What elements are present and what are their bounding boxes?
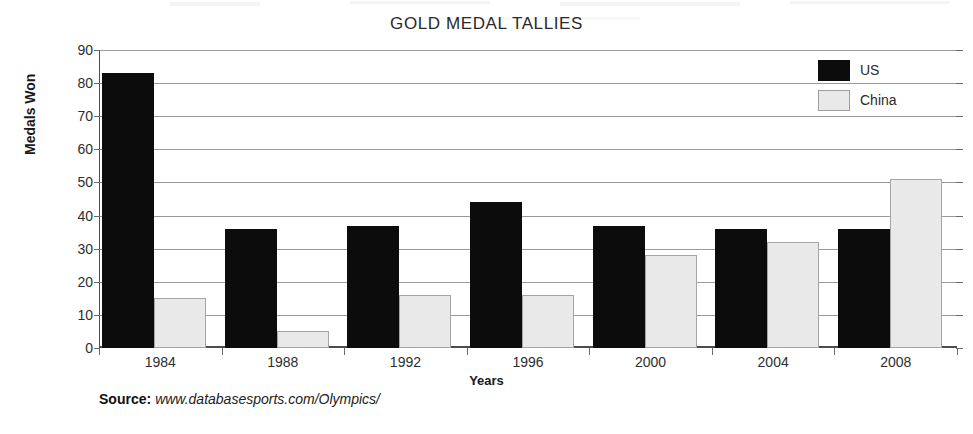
y-axis-tick-label: 30 [59, 241, 93, 257]
bar-us-1996 [470, 202, 522, 348]
bar-china-2000 [645, 255, 697, 348]
legend-swatch-china [818, 90, 850, 111]
legend-item-china: China [818, 85, 948, 115]
x-axis-tick-label: 2008 [880, 354, 911, 370]
y-axis-tick [94, 282, 100, 283]
x-axis-tick-label: 2000 [635, 354, 666, 370]
y-axis-tick-labels: 9080706050403020100 [59, 50, 93, 348]
y-axis-tick-label: 40 [59, 208, 93, 224]
bar-china-1996 [522, 295, 574, 348]
scan-artifact [560, 2, 740, 6]
source-note: Source:www.databasesports.com/Olympics/ [99, 391, 380, 407]
x-axis-tick [712, 348, 713, 355]
bar-us-2008 [838, 229, 890, 348]
x-axis-tick-label: 1984 [145, 354, 176, 370]
y-axis-tick-label: 20 [59, 274, 93, 290]
gridline [99, 216, 957, 217]
legend-item-us: US [818, 55, 948, 85]
x-axis-tick [834, 348, 835, 355]
y-axis-tick-label: 10 [59, 307, 93, 323]
y-axis-tick-right [956, 315, 963, 316]
y-axis-tick-label: 70 [59, 108, 93, 124]
y-axis-tick [94, 149, 100, 150]
x-axis-tick [467, 348, 468, 355]
x-axis-tick [957, 348, 958, 355]
x-axis-label: Years [0, 373, 973, 388]
y-axis-tick [94, 50, 100, 51]
bar-us-1984 [102, 73, 154, 348]
gridline [99, 50, 957, 51]
x-axis-tick-label: 1988 [267, 354, 298, 370]
scan-artifact [350, 1, 490, 4]
source-url: www.databasesports.com/Olympics/ [155, 391, 380, 407]
y-axis-tick [94, 249, 100, 250]
bar-china-1992 [399, 295, 451, 348]
y-axis-tick-right [956, 116, 963, 117]
y-axis-tick-right [956, 83, 963, 84]
scan-artifact [170, 2, 260, 6]
bar-china-2004 [767, 242, 819, 348]
gridline [99, 116, 957, 117]
bar-china-1984 [154, 298, 206, 348]
bar-us-2000 [593, 226, 645, 349]
x-axis-tick-label: 1996 [512, 354, 543, 370]
bar-us-1992 [347, 226, 399, 349]
chart-page: GOLD MEDAL TALLIES Medals Won 9080706050… [0, 0, 973, 434]
x-axis-tick [589, 348, 590, 355]
x-axis-tick-label: 2004 [758, 354, 789, 370]
x-axis-tick [344, 348, 345, 355]
y-axis-label: Medals Won [22, 74, 38, 155]
y-axis-tick [94, 116, 100, 117]
y-axis-line [99, 50, 100, 348]
y-axis-tick-label: 80 [59, 75, 93, 91]
x-axis-tick-label: 1992 [390, 354, 421, 370]
y-axis-tick-label: 0 [59, 340, 93, 356]
scan-artifact [790, 1, 950, 4]
bar-us-2004 [715, 229, 767, 348]
y-axis-tick [94, 315, 100, 316]
y-axis-tick-label: 50 [59, 174, 93, 190]
y-axis-tick [94, 83, 100, 84]
bar-china-2008 [890, 179, 942, 348]
y-axis-tick-right [956, 249, 963, 250]
y-axis-tick-right [956, 50, 963, 51]
legend-label: China [860, 92, 897, 108]
legend-swatch-us [818, 60, 850, 81]
y-axis-tick-right [956, 216, 963, 217]
x-axis-tick [222, 348, 223, 355]
gridline [99, 182, 957, 183]
legend-label: US [860, 62, 879, 78]
x-axis-tick [99, 348, 100, 355]
chart-legend: USChina [818, 55, 948, 115]
gridline [99, 149, 957, 150]
y-axis-tick-right [956, 182, 963, 183]
y-axis-tick-label: 60 [59, 141, 93, 157]
source-label: Source: [99, 391, 151, 407]
y-axis-tick [94, 182, 100, 183]
chart-title: GOLD MEDAL TALLIES [0, 14, 973, 34]
y-axis-tick-right [956, 282, 963, 283]
y-axis-tick [94, 216, 100, 217]
bar-china-1988 [277, 331, 329, 348]
y-axis-tick-right [956, 149, 963, 150]
bar-us-1988 [225, 229, 277, 348]
y-axis-tick-label: 90 [59, 42, 93, 58]
